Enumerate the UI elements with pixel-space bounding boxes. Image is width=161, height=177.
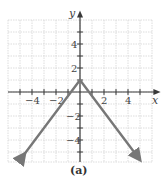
y-tick-label: 2: [71, 63, 77, 74]
y-tick-label: 4: [71, 39, 77, 50]
y-tick-label: −4: [66, 135, 81, 146]
x-tick-label: 2: [101, 95, 107, 106]
absolute-value-graph: x y −4−22442−2−4 (a): [0, 0, 161, 177]
figure-caption: (a): [70, 164, 88, 177]
x-tick-label: 4: [125, 95, 131, 106]
y-axis-label: y: [68, 7, 76, 20]
y-tick-label: −2: [66, 111, 81, 122]
x-axis-label: x: [152, 94, 159, 107]
x-tick-label: −4: [25, 95, 40, 106]
